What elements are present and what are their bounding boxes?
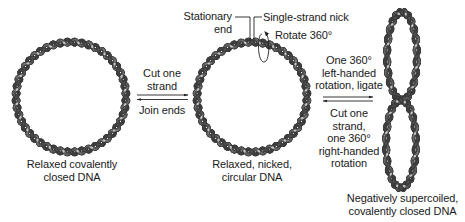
edge-label-line: strand <box>132 80 192 93</box>
caption-line: Negatively supercoiled, <box>340 192 465 205</box>
annotation-line: Stationary <box>170 10 232 23</box>
caption-line: circular DNA <box>192 171 312 184</box>
edge-label-line: Cut one <box>313 107 385 120</box>
relaxed-closed-dna-circle <box>14 40 129 155</box>
caption-line: closed DNA <box>12 171 132 184</box>
edge-label-line: left-handed <box>313 67 385 80</box>
supercoiled-dna-figure-eight <box>384 10 420 190</box>
caption-relaxed-closed-dna: Relaxed covalently closed DNA <box>12 158 132 183</box>
diagram-canvas <box>0 0 465 222</box>
relaxed-nicked-dna-circle <box>195 40 310 155</box>
edge-label-line: one 360° <box>313 132 385 145</box>
label-stationary-end: Stationary end <box>170 10 232 35</box>
caption-relaxed-nicked-dna: Relaxed, nicked, circular DNA <box>192 158 312 183</box>
edge-label-line: One 360° <box>313 54 385 67</box>
label-rotate-360: Rotate 360° <box>275 29 332 42</box>
edge-label-line: rotation <box>313 157 385 170</box>
label-cut-one-strand: Cut one strand <box>132 67 192 92</box>
caption-negatively-supercoiled-dna: Negatively supercoiled, covalently close… <box>340 192 465 217</box>
edge-label-line: rotation, ligate <box>313 79 385 92</box>
edge-label-line: Cut one <box>132 67 192 80</box>
label-single-strand-nick: Single-strand nick <box>263 11 349 24</box>
label-left-handed-rotation-ligate: One 360° left-handed rotation, ligate <box>313 54 385 92</box>
edge-label-line: right-handed <box>313 145 385 158</box>
label-join-ends: Join ends <box>132 104 192 117</box>
nick-bracket <box>235 17 262 41</box>
annotation-line: end <box>170 23 232 36</box>
label-cut-right-handed-rotation: Cut one strand, one 360° right-handed ro… <box>313 107 385 170</box>
caption-line: Relaxed covalently <box>12 158 132 171</box>
edge-label-line: Join ends <box>132 104 192 117</box>
caption-line: covalently closed DNA <box>340 205 465 218</box>
annotation-line: Single-strand nick <box>263 11 349 24</box>
caption-line: Relaxed, nicked, <box>192 158 312 171</box>
annotation-line: Rotate 360° <box>275 29 332 42</box>
edge-label-line: strand, <box>313 120 385 133</box>
